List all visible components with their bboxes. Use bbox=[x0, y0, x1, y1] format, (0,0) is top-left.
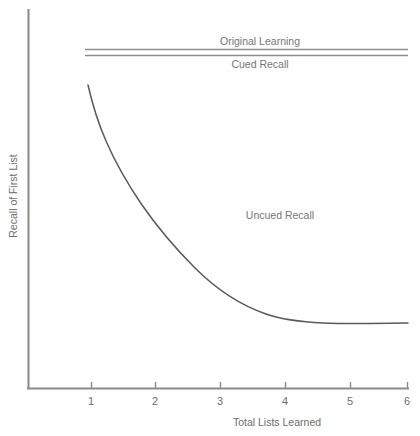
y-axis-title: Recall of First List bbox=[7, 154, 19, 238]
series-label-cued-recall: Cued Recall bbox=[231, 58, 288, 70]
series-curve-uncued-recall bbox=[88, 85, 408, 324]
x-tick-label-5: 5 bbox=[347, 395, 353, 407]
x-tick-label-1: 1 bbox=[88, 395, 94, 407]
x-tick-label-3: 3 bbox=[217, 395, 223, 407]
x-tick-label-4: 4 bbox=[282, 395, 288, 407]
chart-container: 1 2 3 4 5 6 Original Learning Cued Recal… bbox=[0, 0, 420, 436]
chart-canvas: 1 2 3 4 5 6 Original Learning Cued Recal… bbox=[0, 0, 420, 436]
series-label-original-learning: Original Learning bbox=[220, 35, 300, 47]
series-label-uncued-recall: Uncued Recall bbox=[246, 209, 314, 221]
x-tick-label-6: 6 bbox=[404, 395, 410, 407]
x-axis-title: Total Lists Learned bbox=[233, 416, 321, 428]
x-tick-label-2: 2 bbox=[152, 395, 158, 407]
